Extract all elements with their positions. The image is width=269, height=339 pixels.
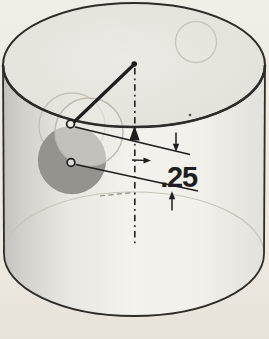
cylinder-left-edge [3, 65, 4, 254]
cylinder-right-edge [264, 65, 265, 254]
top-center-point [131, 61, 137, 67]
lower-center-mark [67, 159, 75, 167]
technical-drawing: .25 [0, 0, 269, 339]
upper-center-mark [67, 120, 75, 128]
print-speck [189, 114, 192, 117]
figure: .25 [0, 0, 269, 339]
dimension-label: .25 [160, 161, 198, 193]
